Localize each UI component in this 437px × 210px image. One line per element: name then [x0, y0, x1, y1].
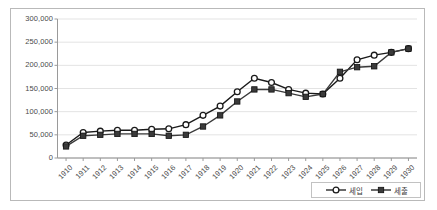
legend-item-1: 세입 [325, 185, 363, 196]
data-point-marker [320, 91, 325, 96]
data-point-marker [200, 124, 205, 129]
legend-label: 세입 [349, 185, 363, 196]
data-point-marker [183, 132, 188, 137]
filled-square-icon [370, 185, 392, 195]
data-point-marker [406, 46, 411, 51]
data-point-marker [149, 131, 154, 136]
data-point-marker [217, 113, 222, 118]
y-tick-label: 150,000 [8, 84, 53, 93]
data-point-marker [354, 57, 360, 63]
data-point-marker [252, 87, 257, 92]
data-point-marker [183, 122, 189, 128]
y-tick-label: 0 [8, 153, 53, 162]
data-point-marker [337, 75, 343, 81]
data-point-marker [217, 103, 223, 109]
data-point-marker [98, 132, 103, 137]
y-tick-label: 300,000 [8, 14, 53, 23]
data-point-marker [371, 52, 377, 58]
data-point-marker [132, 131, 137, 136]
legend-item-2: 세출 [370, 185, 408, 196]
data-point-marker [166, 133, 171, 138]
data-point-marker [166, 126, 172, 132]
y-tick-label: 100,000 [8, 107, 53, 116]
data-point-marker [234, 89, 240, 95]
chart-legend: 세입세출 [311, 182, 421, 198]
y-tick-label: 50,000 [8, 130, 53, 139]
data-point-marker [115, 131, 120, 136]
open-circle-icon [325, 185, 347, 195]
data-point-marker [235, 99, 240, 104]
data-point-marker [354, 64, 359, 69]
chart-container: 300,000250,000200,000150,000100,00050,00… [0, 0, 437, 210]
y-tick-label: 200,000 [8, 60, 53, 69]
data-point-marker [251, 75, 257, 81]
legend-label: 세출 [394, 185, 408, 196]
data-point-marker [286, 90, 291, 95]
y-tick-label: 250,000 [8, 37, 53, 46]
data-point-marker [80, 133, 85, 138]
data-point-marker [372, 64, 377, 69]
data-point-marker [303, 94, 308, 99]
data-point-marker [269, 80, 275, 86]
data-point-marker [389, 50, 394, 55]
data-point-marker [200, 112, 206, 118]
data-point-marker [337, 69, 342, 74]
data-point-marker [63, 144, 68, 149]
data-point-marker [269, 87, 274, 92]
